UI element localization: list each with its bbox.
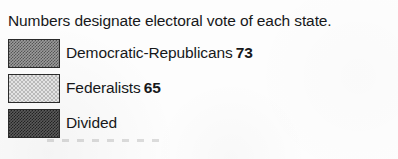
legend-label-text: Democratic-Republicans bbox=[66, 44, 233, 61]
legend-entry-divided: Divided bbox=[0, 106, 398, 141]
legend-entry-democratic-republicans: Democratic-Republicans73 bbox=[0, 36, 398, 71]
legend-count-value: 65 bbox=[144, 79, 161, 96]
swatch-divided bbox=[8, 109, 60, 138]
legend-label-text: Divided bbox=[66, 114, 117, 131]
legend-entry-list: Democratic-Republicans73 Federalists65 D… bbox=[0, 36, 398, 141]
swatch-democratic-republicans bbox=[8, 39, 60, 68]
swatch-federalists bbox=[8, 74, 60, 103]
legend-title: Numbers designate electoral vote of each… bbox=[8, 11, 332, 30]
legend-label-text: Federalists bbox=[66, 79, 141, 96]
legend-label-federalists: Federalists65 bbox=[66, 75, 161, 100]
map-legend: Numbers designate electoral vote of each… bbox=[0, 0, 398, 159]
legend-label-divided: Divided bbox=[66, 110, 117, 135]
legend-label-democratic-republicans: Democratic-Republicans73 bbox=[66, 40, 253, 65]
legend-entry-federalists: Federalists65 bbox=[0, 71, 398, 106]
legend-count-value: 73 bbox=[236, 44, 253, 61]
